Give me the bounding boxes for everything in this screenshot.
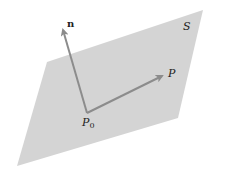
origin-point-subscript: 0 — [89, 121, 94, 130]
normal-vector-label: n — [67, 18, 75, 29]
plane-label: S — [183, 20, 191, 33]
point-p-label: P — [167, 67, 176, 80]
plane-s — [17, 10, 203, 166]
plane-diagram: n S P P0 — [0, 0, 225, 180]
